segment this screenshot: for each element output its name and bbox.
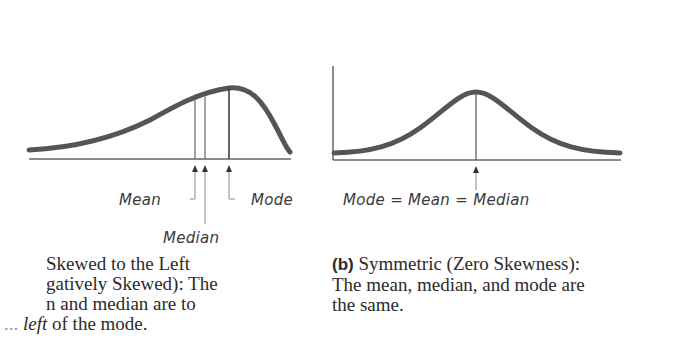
- panel-a-caption-line4-prefix: ...: [4, 313, 18, 334]
- panel-a-caption: Skewed to the Left gatively Skewed): The…: [46, 254, 218, 334]
- median-arrow-icon: [202, 165, 208, 224]
- panel-b-caption-line1-text: Symmetric (Zero Skewness):: [354, 253, 580, 274]
- panel-a-caption-line4: ... left of the mode.: [4, 314, 218, 334]
- center-arrow-icon: [473, 166, 479, 190]
- panel-b-caption: (b) Symmetric (Zero Skewness): The mean,…: [332, 254, 585, 315]
- panel-b-caption-tag: (b): [332, 255, 354, 274]
- panel-a-caption-line3: n and median are to: [46, 294, 218, 314]
- panel-b-caption-line2: The mean, median, and mode are: [332, 275, 585, 295]
- panel-a-caption-line4-rest: of the mode.: [47, 313, 147, 334]
- panel-a-caption-line1: Skewed to the Left: [46, 254, 218, 274]
- panel-a-curve: [29, 88, 290, 152]
- mode-mean-median-label: Mode = Mean = Median: [343, 191, 530, 209]
- panel-a-caption-line2: gatively Skewed): The: [46, 274, 218, 294]
- panel-b-caption-line3: the same.: [332, 295, 585, 315]
- panel-b-caption-line1: (b) Symmetric (Zero Skewness):: [332, 254, 585, 275]
- mode-arrow-icon: [226, 165, 235, 199]
- mean-arrow-icon: [190, 165, 198, 199]
- mode-label: Mode: [251, 191, 293, 209]
- panel-b-curve: [334, 92, 620, 153]
- mean-label: Mean: [119, 191, 161, 209]
- median-label: Median: [163, 229, 219, 247]
- panel-a-caption-line4-italic: left: [23, 313, 47, 334]
- panel-a-left-skewed: Mean Mode Median: [29, 88, 293, 247]
- panel-b-symmetric: Mode = Mean = Median: [333, 66, 621, 209]
